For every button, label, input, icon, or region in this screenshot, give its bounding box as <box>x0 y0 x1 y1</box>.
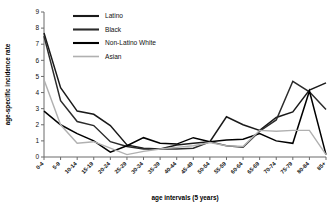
x-axis-tick-label: 20-24 <box>97 160 112 175</box>
x-axis-tick-label: 60-64 <box>229 160 244 175</box>
x-axis-tick-label: 30-34 <box>130 160 145 175</box>
y-axis-tick-label: 1 <box>35 137 39 144</box>
y-axis-tick-label: 5 <box>35 73 39 80</box>
legend-label-latino: Latino <box>105 12 123 19</box>
legend-label-asian: Asian <box>105 53 122 60</box>
x-axis-tick-label: 45-49 <box>180 160 194 174</box>
y-axis-tick-label: 3 <box>35 105 39 112</box>
y-axis-tick-label: 2 <box>35 121 39 128</box>
y-axis-tick-label: 8 <box>35 24 39 31</box>
x-axis-tick-label: 10-14 <box>64 160 79 175</box>
series-line-black <box>44 36 326 149</box>
x-axis-tick-label: 15-19 <box>80 160 94 174</box>
x-axis-tick-label: 5-9 <box>51 160 61 170</box>
x-axis-tick-label: 70-74 <box>263 160 278 175</box>
x-axis-tick-label: 80-84 <box>296 160 311 175</box>
x-axis-tick-label: 50-54 <box>196 160 211 175</box>
y-axis-tick-label: 7 <box>35 40 39 47</box>
y-axis-tick-label: 9 <box>35 8 39 15</box>
y-axis-tick-label: 0 <box>35 153 39 160</box>
x-axis-tick-label: 40-44 <box>163 160 178 175</box>
legend-label-non-latino-white: Non-Latino White <box>105 39 156 46</box>
series-line-non-latino-white <box>44 91 326 155</box>
x-axis-tick-label: 55-59 <box>213 160 227 174</box>
x-axis-tick-label: 25-29 <box>113 160 127 174</box>
x-axis-tick-label: 0-4 <box>35 160 46 171</box>
x-axis-tick-label: 75-79 <box>279 160 293 174</box>
x-axis-title: age intervals (5 years) <box>151 194 218 202</box>
x-axis-tick-label: 35-39 <box>146 160 160 174</box>
chart-container: 01234567890-45-910-1415-1920-2425-2930-3… <box>0 0 333 211</box>
y-axis-tick-label: 4 <box>35 89 39 96</box>
y-axis-title: age-specific incidence rate <box>4 43 12 125</box>
line-chart: 01234567890-45-910-1415-1920-2425-2930-3… <box>0 0 333 211</box>
x-axis-tick-label: 65-69 <box>246 160 260 174</box>
x-axis-tick-label: 85+ <box>316 160 327 171</box>
legend-label-black: Black <box>105 26 122 33</box>
series-line-asian <box>44 80 326 155</box>
y-axis-tick-label: 6 <box>35 57 39 64</box>
